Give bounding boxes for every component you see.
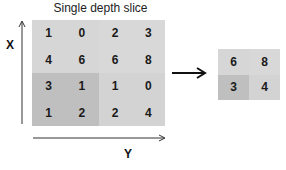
grid-cell: 4 [132, 100, 165, 127]
grid-cell: 1 [99, 73, 132, 100]
grid-cell: 1 [32, 20, 65, 47]
grid-cell: 8 [132, 47, 165, 74]
grid-cell: 3 [132, 20, 165, 47]
grid-cell: 3 [32, 73, 65, 100]
grid-cell: 6 [218, 49, 249, 75]
grid-cell: 6 [65, 47, 98, 74]
grid-cell: 4 [249, 75, 280, 101]
grid-cell: 2 [99, 100, 132, 127]
input-grid: 1 0 2 3 4 6 6 8 3 1 1 0 1 2 2 4 [32, 20, 165, 126]
right-arrow-icon [172, 68, 205, 78]
grid-cell: 6 [99, 47, 132, 74]
grid-cell: 4 [32, 47, 65, 74]
y-axis-arrow-icon [33, 135, 165, 141]
grid-cell: 3 [218, 75, 249, 101]
grid-cell: 2 [65, 100, 98, 127]
grid-cell: 2 [99, 20, 132, 47]
grid-cell: 0 [65, 20, 98, 47]
grid-cell: 8 [249, 49, 280, 75]
x-axis-label: X [6, 38, 14, 52]
x-axis-arrow-icon [19, 21, 25, 124]
output-grid: 6 8 3 4 [218, 49, 280, 100]
grid-cell: 0 [132, 73, 165, 100]
grid-cell: 1 [65, 73, 98, 100]
y-axis-label: Y [124, 147, 132, 161]
grid-cell: 1 [32, 100, 65, 127]
